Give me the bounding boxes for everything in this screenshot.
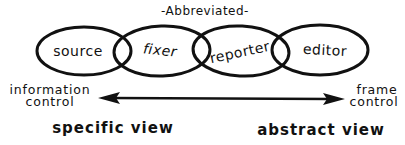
role-spectrum-diagram: -Abbreviated- source fixer reporter edit… [0, 0, 405, 145]
role-label-editor: editor [303, 41, 348, 59]
role-label-fixer: fixer [142, 40, 178, 60]
right-end-label-line2: control [350, 94, 399, 109]
left-end-label-line2: control [26, 94, 75, 109]
diagram-title: -Abbreviated- [161, 4, 249, 18]
abstract-view-label: abstract view [257, 121, 385, 139]
role-label-reporter: reporter [208, 38, 271, 66]
role-label-source: source [53, 43, 103, 59]
specific-view-label: specific view [52, 119, 174, 137]
spectrum-double-arrow-icon [98, 92, 345, 105]
